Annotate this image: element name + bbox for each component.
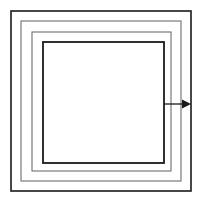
third-square — [32, 32, 171, 171]
annotations-group — [164, 100, 191, 109]
outward-arrow — [164, 100, 191, 109]
arrow-head — [182, 100, 191, 109]
concentric-squares-diagram — [0, 0, 209, 206]
diagram-canvas — [0, 0, 209, 206]
squares-group — [11, 11, 191, 191]
second-square — [21, 21, 181, 181]
inner-square — [43, 42, 164, 163]
